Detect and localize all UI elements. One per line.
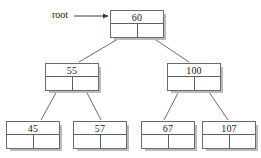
tree-edge bbox=[150, 36, 189, 62]
right-child-pointer-cell[interactable] bbox=[230, 135, 256, 148]
node-key-value: 55 bbox=[46, 64, 98, 77]
left-child-pointer-cell[interactable] bbox=[7, 135, 34, 148]
root-label: root bbox=[52, 9, 68, 20]
node-key-value: 45 bbox=[7, 122, 59, 135]
left-child-pointer-cell[interactable] bbox=[111, 24, 138, 37]
tree-edge bbox=[85, 89, 101, 120]
right-child-pointer-cell[interactable] bbox=[101, 135, 127, 148]
left-child-pointer-cell[interactable] bbox=[168, 77, 195, 90]
node-pointer-row bbox=[7, 135, 59, 148]
tree-node[interactable]: 100 bbox=[167, 63, 221, 91]
tree-node[interactable]: 107 bbox=[202, 121, 256, 149]
left-child-pointer-cell[interactable] bbox=[74, 135, 101, 148]
tree-node[interactable]: 45 bbox=[6, 121, 60, 149]
node-key-value: 100 bbox=[168, 64, 220, 77]
node-key-value: 57 bbox=[74, 122, 126, 135]
node-pointer-row bbox=[46, 77, 98, 90]
node-pointer-row bbox=[168, 77, 220, 90]
left-child-pointer-cell[interactable] bbox=[46, 77, 73, 90]
node-key-value: 67 bbox=[142, 122, 194, 135]
tree-edge bbox=[207, 89, 228, 120]
right-child-pointer-cell[interactable] bbox=[138, 24, 164, 37]
tree-node[interactable]: 57 bbox=[73, 121, 127, 149]
right-child-pointer-cell[interactable] bbox=[169, 135, 195, 148]
tree-diagram-canvas: root 6055100455767107 bbox=[0, 0, 261, 158]
tree-node[interactable]: 67 bbox=[141, 121, 195, 149]
right-child-pointer-cell[interactable] bbox=[34, 135, 60, 148]
node-pointer-row bbox=[142, 135, 194, 148]
right-child-pointer-cell[interactable] bbox=[73, 77, 99, 90]
tree-edge bbox=[41, 89, 58, 120]
tree-edge bbox=[164, 89, 180, 120]
node-pointer-row bbox=[111, 24, 163, 37]
node-pointer-row bbox=[203, 135, 255, 148]
tree-node[interactable]: 55 bbox=[45, 63, 99, 91]
node-key-value: 60 bbox=[111, 11, 163, 24]
tree-edge bbox=[79, 36, 123, 62]
tree-node[interactable]: 60 bbox=[110, 10, 164, 38]
left-child-pointer-cell[interactable] bbox=[142, 135, 169, 148]
left-child-pointer-cell[interactable] bbox=[203, 135, 230, 148]
right-child-pointer-cell[interactable] bbox=[195, 77, 221, 90]
node-pointer-row bbox=[74, 135, 126, 148]
node-key-value: 107 bbox=[203, 122, 255, 135]
